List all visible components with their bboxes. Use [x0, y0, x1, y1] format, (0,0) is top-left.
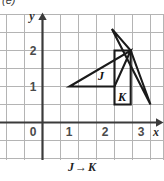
y-axis-label: y — [27, 10, 35, 23]
figure-container: (e) — [0, 0, 164, 181]
x-tick-3: 3 — [138, 125, 145, 139]
figure-caption: J→K — [0, 160, 164, 175]
x-tick-1: 1 — [66, 125, 73, 139]
origin-tick-0: 0 — [30, 125, 37, 139]
y-tick-2: 2 — [30, 44, 37, 58]
x-axis-label: x — [152, 125, 159, 139]
shape-label-k: K — [117, 90, 127, 104]
caption-arrow-icon: → — [74, 160, 88, 174]
coordinate-plane: y x 2 1 0 1 2 3 J K — [0, 10, 164, 160]
caption-to: K — [88, 160, 96, 174]
coordinate-plane-svg: y x 2 1 0 1 2 3 J K — [0, 10, 164, 160]
part-label: (e) — [2, 0, 15, 6]
y-tick-1: 1 — [30, 80, 37, 94]
x-tick-2: 2 — [102, 125, 109, 139]
shape-label-j: J — [97, 69, 105, 83]
